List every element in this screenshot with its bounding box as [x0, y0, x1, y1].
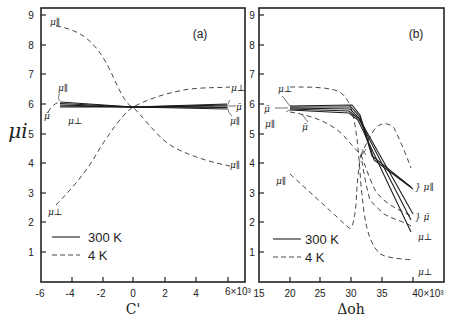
- y-tick-label: 5: [28, 129, 34, 140]
- y-tick-label: 1: [249, 247, 255, 258]
- panel-b-x-tick-labels: 15 20 25 30 35 40×10³: [253, 288, 444, 299]
- x-tick-label: 35: [376, 288, 388, 299]
- x-tick-label: -2: [97, 288, 106, 299]
- y-tick-label: 2: [28, 217, 34, 228]
- panel-tag: (a): [193, 27, 208, 41]
- label-mu-perp: μ⊥: [418, 267, 432, 277]
- curve-b-mu-bar-4k: [290, 112, 411, 168]
- label-mu-bar: μ̄: [236, 102, 242, 112]
- panel-tag: (b): [409, 27, 424, 41]
- x-tick-label: -6: [36, 288, 45, 299]
- label-mu-par: μ∥: [230, 116, 240, 126]
- y-tick-label: 9: [28, 10, 34, 21]
- y-tick-label: 5: [249, 129, 255, 140]
- label-mu-perp: μ⊥: [278, 84, 292, 94]
- y-tick-label: 6: [249, 99, 255, 110]
- panel-b-legend: 300 K 4 K: [273, 232, 339, 265]
- label-mu-par: μ∥: [230, 160, 240, 170]
- y-tick-label: 1: [28, 247, 34, 258]
- y-tick-label: 6: [28, 99, 34, 110]
- leader: [282, 96, 290, 106]
- label-mu-bar: μ̄: [264, 104, 270, 114]
- y-tick-label: 7: [28, 69, 34, 80]
- label-mu-perp: μ⊥: [48, 207, 62, 217]
- y-tick-label: 4: [249, 158, 255, 169]
- panel-a: 1 2 3 4 5 6 7 8 9 -6 -4 -2 0 2 4 6×10³: [28, 8, 251, 317]
- leader: [59, 93, 61, 101]
- y-tick-label: 8: [28, 40, 34, 51]
- y-tick-label: 4: [28, 158, 34, 169]
- label-mu-perp: μ⊥: [418, 232, 432, 242]
- curves-a-300k: [60, 102, 227, 109]
- y-tick-label: 8: [249, 40, 255, 51]
- leader: [286, 110, 290, 112]
- legend-4k: 4 K: [305, 250, 325, 265]
- label-mu-par: μ∥: [265, 119, 275, 129]
- label-mu-bar: } μ̄: [415, 212, 430, 222]
- figure: .ax { stroke:#222; stroke-width:1.6; fil…: [0, 0, 454, 319]
- label-mu-perp: μ⊥: [68, 116, 82, 126]
- label-mu-bar: μ̄: [44, 111, 50, 121]
- legend-4k: 4 K: [88, 248, 108, 263]
- y-tick-label: 3: [28, 188, 34, 199]
- y-tick-label: 2: [249, 217, 255, 228]
- x-tick-label: 20: [284, 288, 296, 299]
- legend-300k: 300 K: [88, 230, 122, 245]
- panel-a-legend: 300 K 4 K: [52, 230, 122, 263]
- x-tick-label: 0: [130, 288, 136, 299]
- panel-a-x-tick-labels: -6 -4 -2 0 2 4 6×10³: [36, 286, 252, 299]
- x-tick-label: 6×10³: [225, 286, 252, 297]
- label-mu-par: μ∥: [58, 83, 68, 93]
- y-tick-label: 3: [249, 188, 255, 199]
- x-tick-label: 4: [193, 288, 199, 299]
- label-mu-par: } μ∥: [415, 182, 434, 192]
- y-tick-label: 7: [249, 69, 255, 80]
- x-tick-label: 2: [162, 288, 168, 299]
- legend-300k: 300 K: [305, 232, 339, 247]
- label-mu-perp: μ⊥: [231, 83, 245, 93]
- curve-a-mu-par-4k: [56, 26, 230, 166]
- x-tick-label: 15: [253, 288, 265, 299]
- label-mu-bar: μ̄: [302, 122, 308, 132]
- x-tick-label: -4: [66, 288, 75, 299]
- label-mu-par: μ∥: [276, 176, 286, 186]
- curve-b-mu-bar-inner-4k: [361, 155, 411, 216]
- x-tick-label: 30: [345, 288, 357, 299]
- panel-b: 1 2 3 4 5 6 7 8 9 15 20 25 30 35 40×10³ …: [249, 8, 444, 317]
- panel-a-y-tick-labels: 1 2 3 4 5 6 7 8 9: [28, 10, 34, 258]
- curve-b-mu-par-4k: [290, 155, 411, 228]
- x-axis-title: C': [126, 301, 141, 317]
- y-tick-label: 9: [249, 10, 255, 21]
- y-axis-title: μi: [8, 119, 27, 143]
- curves-b-300k: [290, 105, 413, 232]
- panel-a-frame: [41, 8, 245, 282]
- leader: [228, 100, 232, 116]
- x-axis-title: Δoh: [337, 301, 365, 317]
- x-tick-label: 40×10³: [412, 288, 444, 299]
- label-mu-par: μ∥: [50, 17, 60, 27]
- panel-b-y-tick-labels: 1 2 3 4 5 6 7 8 9: [249, 10, 255, 258]
- x-tick-label: 25: [314, 288, 326, 299]
